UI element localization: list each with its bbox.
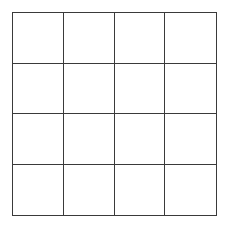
grid-cell-r2-c3 (115, 64, 166, 115)
grid-cell-r2-c1 (13, 64, 64, 115)
grid-cell-r4-c3 (115, 165, 166, 216)
grid-cell-r3-c3 (115, 114, 166, 165)
grid-cell-r3-c4 (165, 114, 216, 165)
grid-cell-r2-c2 (64, 64, 115, 115)
grid-cell-r4-c4 (165, 165, 216, 216)
grid-cell-r1-c2 (64, 13, 115, 64)
grid-cell-r1-c4 (165, 13, 216, 64)
empty-4x4-grid (12, 12, 217, 216)
grid-cell-r1-c1 (13, 13, 64, 64)
grid-cell-r3-c1 (13, 114, 64, 165)
grid-cell-r2-c4 (165, 64, 216, 115)
grid-cell-r4-c1 (13, 165, 64, 216)
grid-cell-r1-c3 (115, 13, 166, 64)
grid-cell-r4-c2 (64, 165, 115, 216)
grid-cell-r3-c2 (64, 114, 115, 165)
